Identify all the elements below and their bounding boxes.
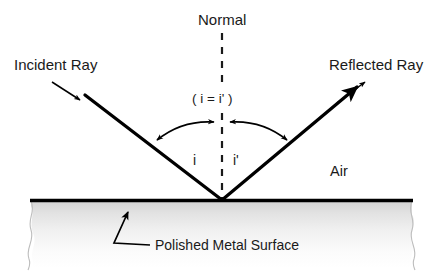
incident-ray-label: Incident Ray: [14, 57, 97, 72]
reflected-ray-label: Reflected Ray: [329, 57, 423, 72]
left-torn-edge-line: [28, 201, 33, 270]
air-medium-label: Air: [330, 164, 348, 179]
angle-of-reflection-label: i': [233, 153, 239, 167]
angle-of-incidence-label: i: [193, 153, 196, 167]
angle-equality-label: ( i = i' ): [192, 92, 232, 106]
reflected-ray-leader: [337, 82, 365, 103]
polished-metal-surface-label: Polished Metal Surface: [155, 238, 299, 252]
normal-label: Normal: [198, 12, 246, 27]
metal-body: [31, 201, 414, 268]
diagram-canvas: [0, 0, 443, 272]
reflection-diagram: Normal Incident Ray Reflected Ray ( i = …: [0, 0, 443, 272]
right-torn-edge-line: [410, 201, 415, 270]
reflected-ray: [222, 87, 357, 200]
incident-ray: [85, 95, 222, 200]
angle-arc-reflection: [230, 122, 287, 140]
incident-ray-leader: [52, 82, 80, 100]
angle-arc-incidence: [157, 122, 214, 140]
